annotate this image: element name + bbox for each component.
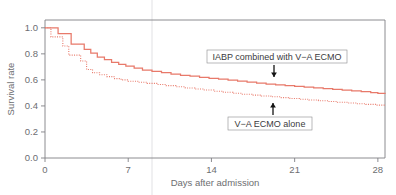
x-axis-label: Days after admission <box>171 177 260 188</box>
x-tick-label: 0 <box>42 164 47 175</box>
x-tick-label: 21 <box>289 164 300 175</box>
annotation-arrow-head-up <box>270 103 276 107</box>
annotation-label: IABP combined with V−A ECMO <box>212 52 341 62</box>
survival-curve-figure: 0.00.20.40.60.81.0 07142128 Survival rat… <box>0 0 396 195</box>
survival-curves <box>45 28 385 106</box>
annotation-iabp-ecmo: IABP combined with V−A ECMO <box>207 50 347 77</box>
y-tick-label: 0.2 <box>25 126 38 137</box>
y-tick-label: 0.4 <box>25 100 38 111</box>
y-tick-label: 1.0 <box>25 22 38 33</box>
annotation-label: V−A ECMO alone <box>235 119 306 129</box>
annotation-arrow-head-down <box>271 73 277 77</box>
y-tick-label: 0.6 <box>25 74 38 85</box>
y-axis-label: Survival rate <box>5 63 16 116</box>
x-tick-label: 7 <box>126 164 131 175</box>
x-axis-ticks: 07142128 <box>42 158 383 175</box>
y-tick-label: 0.8 <box>25 48 38 59</box>
x-tick-label: 28 <box>373 164 384 175</box>
curve-annotations: IABP combined with V−A ECMOV−A ECMO alon… <box>207 50 347 130</box>
kaplan-meier-chart: 0.00.20.40.60.81.0 07142128 Survival rat… <box>0 0 396 195</box>
y-tick-label: 0.0 <box>25 152 38 163</box>
survival-curve-ecmo-alone <box>45 28 385 106</box>
annotation-ecmo-alone: V−A ECMO alone <box>228 103 312 130</box>
x-tick-label: 14 <box>206 164 217 175</box>
y-axis-ticks: 0.00.20.40.60.81.0 <box>25 22 45 163</box>
